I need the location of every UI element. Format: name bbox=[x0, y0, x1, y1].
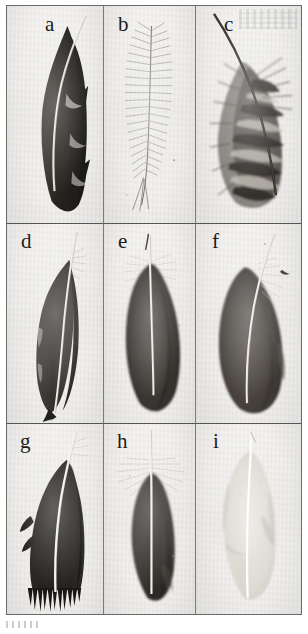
figure-frame: a b bbox=[6, 5, 302, 615]
panel-label-a: a bbox=[45, 14, 54, 35]
panel-d: d bbox=[7, 224, 104, 424]
panel-c: c bbox=[196, 6, 301, 224]
panel-label-i: i bbox=[213, 431, 219, 452]
panel-i: i bbox=[196, 424, 301, 614]
panel-e: e bbox=[104, 224, 196, 424]
panel-label-d: d bbox=[21, 231, 32, 252]
panel-label-c: c bbox=[224, 14, 233, 35]
panel-label-h: h bbox=[117, 431, 128, 452]
feather-image-b bbox=[104, 6, 195, 223]
panel-h: h bbox=[104, 424, 196, 614]
figure-plate: a b bbox=[0, 0, 308, 634]
feather-image-e bbox=[104, 224, 195, 423]
panel-a: a bbox=[7, 6, 104, 224]
panel-g: g bbox=[7, 424, 104, 614]
feather-image-f bbox=[196, 224, 301, 423]
panel-label-f: f bbox=[212, 231, 219, 252]
panel-label-b: b bbox=[118, 14, 129, 35]
feather-image-a bbox=[7, 6, 103, 223]
scan-edge-artifact bbox=[6, 621, 42, 628]
panel-f: f bbox=[196, 224, 301, 424]
panel-b: b bbox=[104, 6, 196, 224]
feather-image-c bbox=[196, 6, 301, 223]
feather-image-d bbox=[7, 224, 103, 423]
feather-image-i bbox=[196, 424, 301, 614]
panel-label-e: e bbox=[118, 231, 127, 252]
panel-label-g: g bbox=[20, 431, 31, 452]
